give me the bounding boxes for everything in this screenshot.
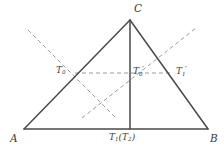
point-label-T0-subscript: 0 [62,69,66,75]
vertex-label-A: A [10,133,18,144]
point-label-T1-prime-mark: ′ [185,65,187,75]
side-AC-line [24,20,130,129]
dashed-upper-left-descending-line [28,30,116,118]
vertex-label-C: C [134,3,142,14]
point-label-T1-T2: T1(T2) [109,133,135,143]
point-label-T0-prime-mark: ′ [142,65,144,75]
point-label-T0-prime: T0′ [133,66,144,77]
vertex-label-B: B [210,133,218,144]
dashed-construction-lines [28,28,196,118]
geometry-figure: A B C T0 T0′ T1′ T1(T2) [0,0,224,157]
point-label-paren-close: ) [132,132,136,142]
point-label-T0: T0 [56,66,66,76]
point-label-T1-prime: T1′ [176,66,187,77]
